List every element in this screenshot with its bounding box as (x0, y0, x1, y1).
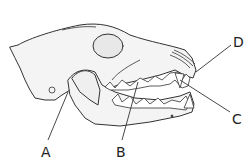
label-B: B (116, 145, 126, 159)
skull-diagram (0, 0, 249, 163)
leader-line-D (196, 45, 231, 72)
label-C: C (232, 112, 242, 126)
label-A: A (41, 145, 51, 159)
orbit (93, 34, 123, 58)
label-D: D (233, 35, 244, 49)
